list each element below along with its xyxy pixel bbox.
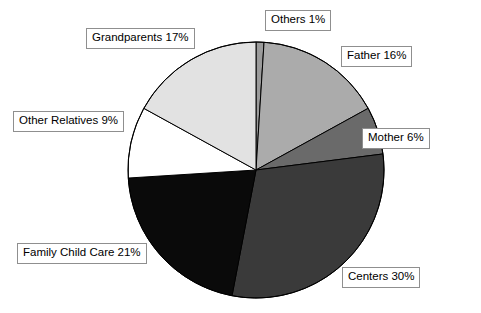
slice-label-mother: Mother 6% [362,128,430,149]
slice-label-grandparents-text: Grandparents 17% [92,31,189,43]
slice-label-mother-text: Mother 6% [368,131,424,143]
slice-label-family-child-care: Family Child Care 21% [17,243,147,264]
slice-label-father: Father 16% [341,46,412,67]
slice-label-others-text: Others 1% [271,13,325,25]
slice-label-grandparents: Grandparents 17% [86,28,195,49]
slice-label-centers-text: Centers 30% [348,270,414,282]
slice-label-family-child-care-text: Family Child Care 21% [23,246,141,258]
pie-slice-group [128,42,384,298]
slice-label-centers: Centers 30% [342,267,420,288]
slice-label-other-relatives: Other Relatives 9% [13,111,124,132]
pie-chart-figure: Others 1% Grandparents 17% Father 16% Mo… [0,0,481,313]
slice-label-father-text: Father 16% [347,49,406,61]
slice-label-others: Others 1% [265,10,331,31]
slice-label-other-relatives-text: Other Relatives 9% [19,114,118,126]
